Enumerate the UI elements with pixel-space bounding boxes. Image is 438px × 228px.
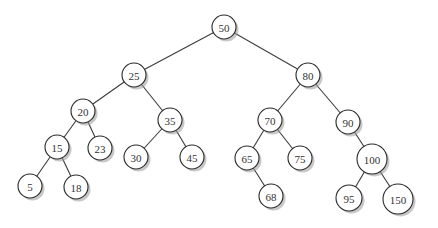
node-label: 15 <box>52 142 64 154</box>
tree-node-23: 23 <box>88 136 115 163</box>
tree-node-35: 35 <box>158 108 185 135</box>
tree-node-150: 150 <box>383 184 416 217</box>
node-label: 95 <box>344 193 356 205</box>
tree-node-45: 45 <box>180 145 207 172</box>
tree-node-100: 100 <box>357 144 390 177</box>
node-label: 100 <box>364 154 381 166</box>
tree-node-80: 80 <box>296 63 323 90</box>
tree-node-25: 25 <box>122 63 149 90</box>
node-label: 45 <box>187 152 199 164</box>
tree-node-50: 50 <box>212 15 239 42</box>
tree-node-90: 90 <box>336 110 363 137</box>
node-label: 5 <box>27 181 33 193</box>
tree-node-15: 15 <box>45 135 72 162</box>
node-label: 30 <box>131 152 143 164</box>
tree-edge-50-25 <box>134 27 224 75</box>
node-label: 18 <box>71 182 83 194</box>
node-label: 35 <box>165 115 177 127</box>
binary-search-tree-diagram: 502580203570901523304565751005186895150 <box>0 0 438 228</box>
node-label: 70 <box>265 115 277 127</box>
node-label: 23 <box>95 143 107 155</box>
tree-node-5: 5 <box>18 174 45 201</box>
node-label: 80 <box>303 70 315 82</box>
node-label: 68 <box>266 191 278 203</box>
node-label: 65 <box>242 153 254 165</box>
tree-node-95: 95 <box>336 185 365 214</box>
tree-node-75: 75 <box>288 146 315 173</box>
node-label: 75 <box>295 153 307 165</box>
tree-node-68: 68 <box>259 184 286 211</box>
tree-node-30: 30 <box>124 145 151 172</box>
node-label: 90 <box>343 117 355 129</box>
tree-node-18: 18 <box>64 175 91 202</box>
node-label: 50 <box>219 22 231 34</box>
node-label: 150 <box>390 194 407 206</box>
tree-node-70: 70 <box>258 108 285 135</box>
node-label: 25 <box>129 70 141 82</box>
node-label: 20 <box>78 106 90 118</box>
tree-node-65: 65 <box>235 146 262 173</box>
